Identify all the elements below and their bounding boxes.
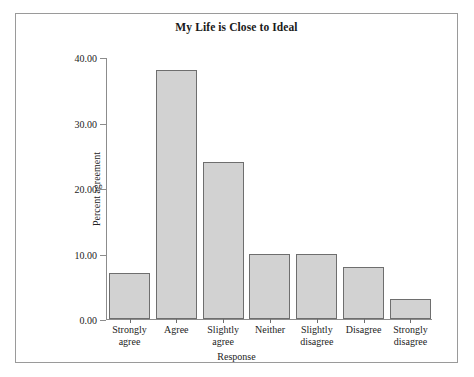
x-tick-mark (317, 319, 318, 323)
bar-slot (248, 57, 291, 319)
x-label-slightly-agree: Slightly agree (202, 324, 245, 348)
bar-strongly-agree[interactable] (109, 273, 150, 319)
bar-slot (202, 57, 245, 319)
bar-slot (342, 57, 385, 319)
x-tick-mark (270, 319, 271, 323)
x-label-neither: Neither (248, 324, 291, 348)
x-label-line1: Slightly (295, 324, 338, 336)
y-tick-mark (100, 189, 106, 190)
y-tick-label: 0.00 (80, 315, 98, 326)
y-tick-label: 40.00 (75, 53, 98, 64)
bar-slightly-agree[interactable] (203, 162, 244, 319)
bar-slot (295, 57, 338, 319)
bar-agree[interactable] (156, 70, 197, 319)
bar-neither[interactable] (249, 254, 290, 320)
x-tick-mark (364, 319, 365, 323)
x-label-strongly-disagree: Strongly disagree (389, 324, 432, 348)
x-axis-tick-labels: Strongly agree Agree Slightly agree Neit… (108, 324, 432, 348)
bar-strongly-disagree[interactable] (390, 299, 431, 319)
x-label-line1: Strongly (389, 324, 432, 336)
bar-slot (155, 57, 198, 319)
bar-series (108, 57, 432, 319)
x-label-line1: Agree (155, 324, 198, 336)
y-tick-mark (100, 320, 106, 321)
x-label-disagree: Disagree (342, 324, 385, 348)
x-label-line1: Strongly (108, 324, 151, 336)
x-tick-mark (176, 319, 177, 323)
bar-slot (108, 57, 151, 319)
x-label-line1: Slightly (202, 324, 245, 336)
plot-area: Percent agreement 40.00 30.00 20.00 10.0… (106, 58, 432, 320)
x-tick-mark (410, 319, 411, 323)
x-tick-mark (223, 319, 224, 323)
x-axis-title: Response (16, 351, 457, 362)
x-label-line2: agree (202, 336, 245, 348)
y-tick-mark (100, 124, 106, 125)
x-label-agree: Agree (155, 324, 198, 348)
x-label-strongly-agree: Strongly agree (108, 324, 151, 348)
chart-title: My Life is Close to Ideal (16, 21, 457, 33)
y-axis-line (106, 58, 107, 320)
x-label-line2: disagree (389, 336, 432, 348)
x-label-slightly-disagree: Slightly disagree (295, 324, 338, 348)
x-label-line1: Neither (248, 324, 291, 336)
y-tick-label: 10.00 (75, 249, 98, 260)
y-tick-label: 20.00 (75, 184, 98, 195)
x-label-line2: disagree (295, 336, 338, 348)
x-label-line1: Disagree (342, 324, 385, 336)
y-tick-label: 30.00 (75, 118, 98, 129)
y-tick-mark (100, 58, 106, 59)
x-label-line2: agree (108, 336, 151, 348)
bar-disagree[interactable] (343, 267, 384, 319)
bar-slightly-disagree[interactable] (296, 254, 337, 320)
x-tick-mark (130, 319, 131, 323)
bar-slot (389, 57, 432, 319)
chart-figure: My Life is Close to Ideal Percent agreem… (15, 13, 458, 363)
y-tick-mark (100, 255, 106, 256)
